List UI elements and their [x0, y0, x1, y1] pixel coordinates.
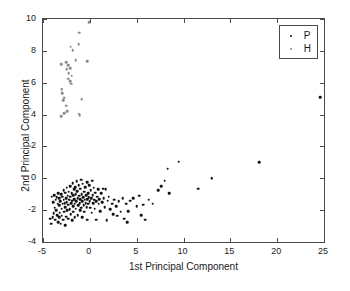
data-point-p [52, 212, 55, 215]
data-point-h [69, 67, 72, 70]
data-point-p [89, 189, 92, 192]
data-point-h [61, 92, 64, 95]
x-tick [137, 19, 138, 23]
plot-area: P H [42, 18, 325, 243]
x-tick-label: 20 [271, 246, 281, 256]
data-point-p [58, 204, 61, 207]
y-tick-label: 0 [36, 172, 41, 182]
data-point-p [66, 187, 69, 190]
data-point-p [88, 184, 91, 187]
y-tick [320, 51, 324, 52]
data-point-p [142, 203, 145, 206]
data-point-h [77, 43, 80, 46]
data-point-h [81, 98, 84, 101]
data-point-p [69, 213, 72, 216]
data-point-p [90, 211, 93, 214]
data-point-h [70, 82, 73, 85]
data-point-p [79, 187, 82, 190]
data-point-h [60, 88, 63, 91]
legend-marker-p-icon [284, 30, 298, 41]
data-point-p [74, 216, 77, 219]
data-point-p [59, 222, 62, 225]
data-point-p [68, 208, 71, 211]
data-point-p [86, 181, 89, 184]
x-tick [324, 238, 325, 242]
legend-entry-h: H [284, 42, 311, 55]
data-point-p [67, 218, 70, 221]
legend-label-h: H [298, 43, 311, 54]
data-point-p [74, 202, 77, 205]
data-point-h [60, 63, 63, 66]
data-point-p [210, 177, 213, 180]
data-point-p [127, 210, 130, 213]
x-tick [184, 238, 185, 242]
data-point-p [86, 218, 89, 221]
data-point-p [113, 198, 116, 201]
legend-entry-p: P [284, 29, 311, 42]
data-point-h [78, 31, 81, 34]
data-point-p [76, 190, 79, 193]
scatter-plot-figure: P H 1st Principal Component 2nd Principa… [0, 0, 350, 291]
y-tick [320, 146, 324, 147]
x-tick [90, 19, 91, 23]
data-point-p [75, 200, 78, 203]
data-point-p [104, 206, 107, 209]
data-point-p [65, 197, 68, 200]
data-point-p [94, 191, 97, 194]
data-point-p [83, 210, 86, 213]
data-point-h [86, 60, 89, 63]
y-tick [320, 178, 324, 179]
data-point-h [65, 105, 68, 108]
data-point-p [98, 198, 101, 201]
data-point-p [71, 182, 74, 185]
data-point-p [103, 197, 106, 200]
y-tick [43, 115, 47, 116]
data-point-p [163, 179, 166, 182]
data-point-p [64, 224, 67, 227]
x-tick-label: 10 [177, 246, 187, 256]
x-tick [230, 238, 231, 242]
y-tick-label: 8 [36, 45, 41, 55]
data-point-p [75, 180, 78, 183]
data-point-h [74, 59, 77, 62]
y-tick [43, 146, 47, 147]
data-point-p [129, 199, 132, 202]
y-tick-label: 6 [36, 77, 41, 87]
data-point-p [91, 179, 94, 182]
x-tick-label: 15 [224, 246, 234, 256]
data-point-p [132, 197, 135, 200]
data-point-p [50, 222, 53, 225]
data-point-p [178, 160, 181, 163]
y-tick [43, 178, 47, 179]
legend-marker-h-icon [284, 43, 298, 54]
data-point-p [69, 185, 72, 188]
data-point-h [60, 115, 63, 118]
data-point-p [81, 193, 84, 196]
y-axis-title: 2nd Principal Component [20, 56, 31, 216]
data-point-p [76, 214, 79, 217]
data-point-p [115, 205, 118, 208]
data-point-p [99, 210, 102, 213]
y-tick [320, 242, 324, 243]
data-point-p [60, 207, 63, 210]
data-point-h [70, 74, 73, 77]
data-point-p [74, 186, 77, 189]
data-point-p [140, 214, 143, 217]
data-point-p [151, 202, 154, 205]
x-tick [277, 19, 278, 23]
y-tick [320, 115, 324, 116]
x-tick [324, 19, 325, 23]
data-point-p [197, 187, 200, 190]
x-tick [90, 238, 91, 242]
data-point-p [89, 206, 92, 209]
data-point-p [95, 218, 98, 221]
y-tick [43, 83, 47, 84]
data-point-h [63, 112, 66, 115]
data-point-p [319, 96, 322, 99]
x-tick [184, 19, 185, 23]
y-tick-label: 2 [36, 140, 41, 150]
data-point-p [92, 187, 95, 190]
data-point-p [61, 195, 64, 198]
data-point-p [116, 214, 119, 217]
x-tick-label: 5 [133, 246, 138, 256]
